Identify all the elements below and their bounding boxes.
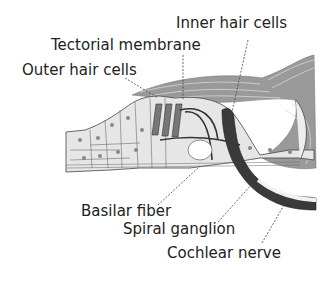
diagram-canvas: Inner hair cells Tectorial membrane Oute…: [0, 0, 336, 284]
outer-hair-cells-shape: [152, 104, 182, 137]
label-cochlear-nerve: Cochlear nerve: [167, 246, 281, 261]
label-inner-hair-cells: Inner hair cells: [176, 16, 287, 31]
label-outer-hair-cells: Outer hair cells: [22, 63, 137, 78]
label-basilar-fiber: Basilar fiber: [81, 204, 171, 219]
label-tectorial-membrane: Tectorial membrane: [51, 38, 201, 53]
label-spiral-ganglion: Spiral ganglion: [123, 222, 235, 237]
